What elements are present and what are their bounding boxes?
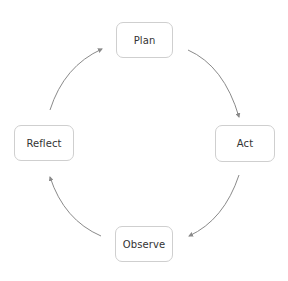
arrow-plan-to-act	[188, 50, 239, 117]
node-observe: Observe	[115, 226, 173, 262]
node-observe-label: Observe	[123, 239, 165, 250]
node-act: Act	[215, 125, 275, 162]
cycle-diagram: Plan Act Observe Reflect	[0, 0, 288, 281]
node-plan-label: Plan	[134, 35, 156, 46]
node-plan: Plan	[116, 22, 173, 58]
arrow-reflect-to-plan	[50, 49, 102, 110]
node-act-label: Act	[237, 138, 253, 149]
node-reflect: Reflect	[14, 125, 74, 161]
arrow-observe-to-reflect	[50, 177, 101, 236]
arrow-act-to-observe	[189, 175, 239, 236]
node-reflect-label: Reflect	[26, 138, 61, 149]
